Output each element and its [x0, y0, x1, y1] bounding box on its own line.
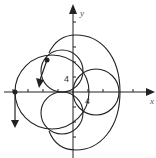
y-axis-label: y — [79, 8, 84, 18]
arrow-down-icon — [11, 120, 19, 128]
x-axis-label: x — [149, 96, 154, 106]
x-axis-arrow-icon — [146, 88, 155, 96]
polar-diagram: x 4 y 4 — [0, 0, 156, 158]
point-on-x-axis — [11, 90, 19, 129]
y-tick-label: 4 — [64, 74, 69, 84]
x-axis: x 4 — [4, 88, 155, 106]
y-axis-arrow-icon — [69, 4, 77, 14]
